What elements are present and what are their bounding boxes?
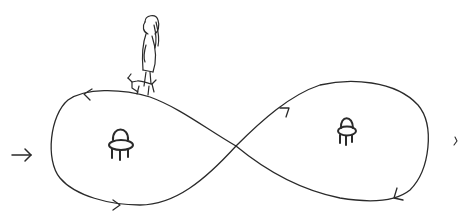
arrow-left-bottom-icon (113, 200, 120, 210)
right-edge-mark-icon (454, 137, 457, 145)
arrow-left-top-icon (84, 89, 92, 100)
direction-arrow-icons (84, 89, 403, 210)
girl-walking-dog-figure (128, 16, 159, 95)
arrow-right-bottom-icon (394, 188, 403, 200)
entry-arrow-icon (12, 149, 31, 161)
arrow-center-icon (280, 108, 289, 117)
chair-left-icon (109, 130, 133, 161)
chair-right-icon (338, 118, 356, 145)
figure-eight-path (51, 82, 428, 205)
drawing-canvas: Hand-drawn figure-eight path with two ch… (0, 0, 459, 218)
